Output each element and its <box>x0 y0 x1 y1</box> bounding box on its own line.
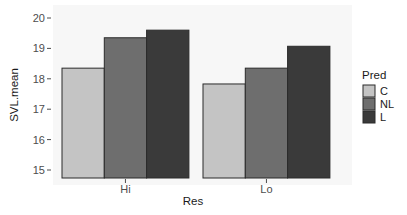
legend-label-c: C <box>380 85 388 97</box>
y-tick-label: 18 <box>33 73 45 85</box>
y-axis: 151617181920 <box>33 12 51 176</box>
x-tick-label: Hi <box>120 183 130 195</box>
bar-lo-c <box>203 84 245 178</box>
legend-key-l <box>363 111 375 123</box>
y-axis-title: SVL.mean <box>8 68 20 122</box>
bar-lo-l <box>288 46 330 178</box>
bar-hi-l <box>147 30 189 178</box>
legend-label-nl: NL <box>380 98 394 110</box>
y-tick-label: 17 <box>33 103 45 115</box>
y-tick-label: 19 <box>33 42 45 54</box>
legend-label-l: L <box>380 111 386 123</box>
y-tick-label: 15 <box>33 164 45 176</box>
bar-lo-nl <box>245 68 287 178</box>
bar-hi-c <box>62 68 104 178</box>
y-tick-label: 16 <box>33 134 45 146</box>
legend-key-c <box>363 85 375 97</box>
legend-key-nl <box>363 98 375 110</box>
x-tick-label: Lo <box>260 183 272 195</box>
legend-title: Pred <box>362 69 386 81</box>
x-axis-title: Res <box>183 195 204 207</box>
y-tick-label: 20 <box>33 12 45 24</box>
bar-hi-nl <box>104 38 146 178</box>
bar-chart: 151617181920 HiLo SVL.mean Res Pred CNLL <box>0 0 407 215</box>
legend: Pred CNLL <box>362 69 394 123</box>
